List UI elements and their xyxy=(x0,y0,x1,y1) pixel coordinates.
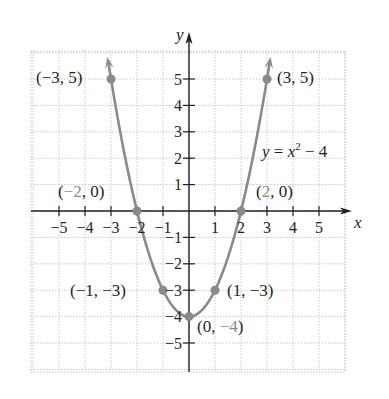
x-tick-label: −5 xyxy=(50,219,67,236)
y-tick-label: −1 xyxy=(165,229,182,246)
y-axis-label: y xyxy=(174,25,184,44)
y-tick-label: 1 xyxy=(174,176,182,193)
data-point xyxy=(263,75,272,84)
x-tick-label: 3 xyxy=(263,219,271,236)
x-tick-label: 2 xyxy=(237,219,245,236)
point-label-1-neg3: (1, −3) xyxy=(227,281,273,300)
data-point xyxy=(185,312,194,321)
point-label-2-0: (2, 0) xyxy=(256,182,293,201)
point-label-neg3-5: (−3, 5) xyxy=(36,68,82,87)
x-tick-label: 1 xyxy=(211,219,219,236)
y-tick-label: 3 xyxy=(174,123,182,140)
labels: −5−4−3−2−112345−5−4−3−2−112345yx(−3, 5)(… xyxy=(36,25,362,352)
x-tick-label: −2 xyxy=(128,219,145,236)
equation-label: y = x2 − 4 xyxy=(260,140,328,161)
y-tick-label: 2 xyxy=(174,150,182,167)
parabola-chart: −5−4−3−2−112345−5−4−3−2−112345yx(−3, 5)(… xyxy=(0,0,389,399)
y-tick-label: −5 xyxy=(165,335,182,352)
y-tick-label: 5 xyxy=(174,71,182,88)
y-tick-label: −2 xyxy=(165,255,182,272)
data-point xyxy=(211,286,220,295)
point-label-neg1-neg3: (−1, −3) xyxy=(70,281,126,300)
x-tick-label: 5 xyxy=(315,219,323,236)
point-label-0-neg4: (0, −4) xyxy=(197,317,243,336)
x-tick-label: 4 xyxy=(289,219,297,236)
x-axis-label: x xyxy=(353,213,362,232)
data-point xyxy=(133,207,142,216)
data-point xyxy=(107,75,116,84)
x-tick-label: −4 xyxy=(76,219,93,236)
point-label-neg2-0: (−2, 0) xyxy=(58,182,104,201)
y-tick-label: −4 xyxy=(165,308,182,325)
y-tick-label: 4 xyxy=(174,97,182,114)
data-point xyxy=(237,207,246,216)
x-tick-label: −3 xyxy=(102,219,119,236)
y-tick-label: −3 xyxy=(165,282,182,299)
point-label-3-5: (3, 5) xyxy=(277,68,314,87)
